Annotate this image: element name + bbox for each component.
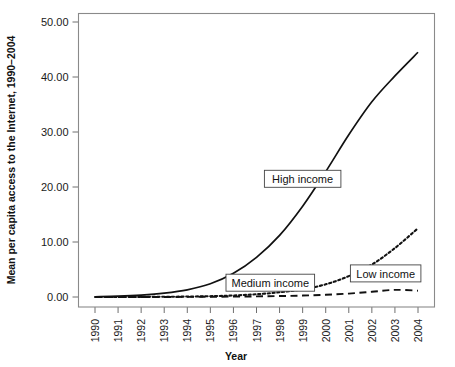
x-tick-label: 1994 <box>181 319 193 343</box>
y-tick-label: 40.00 <box>41 71 69 83</box>
annotation-high-income: High income <box>264 170 341 187</box>
y-axis-title: Mean per capita access to the Internet, … <box>5 36 17 285</box>
x-tick-label: 1993 <box>158 319 170 343</box>
x-tick-label: 1995 <box>204 319 216 343</box>
internet-access-line-chart: Mean per capita access to the Internet, … <box>0 0 455 367</box>
annotation-medium-income: Medium income <box>226 274 315 291</box>
x-tick-label: 1992 <box>135 319 147 343</box>
y-tick-label: 30.00 <box>41 126 69 138</box>
x-tick-label: 2000 <box>320 319 332 343</box>
x-axis-title: Year <box>225 350 247 362</box>
annotation-text: Low income <box>356 268 415 280</box>
x-tick-label: 2001 <box>343 319 355 343</box>
y-tick-label: 20.00 <box>41 181 69 193</box>
x-tick-label: 1998 <box>274 319 286 343</box>
x-tick-label: 1997 <box>251 319 263 343</box>
annotation-text: High income <box>272 173 333 185</box>
y-tick-label: 50.00 <box>41 16 69 28</box>
y-tick-label: 10.00 <box>41 236 69 248</box>
y-tick-label: 0.00 <box>47 291 68 303</box>
x-tick-label: 1996 <box>227 319 239 343</box>
x-tick-label: 2002 <box>366 319 378 343</box>
x-tick-label: 2004 <box>412 319 424 343</box>
annotation-low-income: Low income <box>350 265 421 282</box>
annotation-text: Medium income <box>231 277 309 289</box>
x-tick-label: 2003 <box>389 319 401 343</box>
x-tick-label: 1999 <box>297 319 309 343</box>
x-tick-label: 1991 <box>112 319 124 343</box>
x-tick-label: 1990 <box>89 319 101 343</box>
chart-container: Mean per capita access to the Internet, … <box>0 0 455 367</box>
